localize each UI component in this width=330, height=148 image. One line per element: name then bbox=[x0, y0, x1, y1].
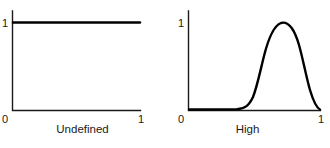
chart-caption-high: High bbox=[165, 122, 330, 136]
chart-caption-undefined: Undefined bbox=[0, 122, 165, 136]
membership-function-figure: 1 0 1 Undefined 1 0 1 High bbox=[0, 0, 330, 148]
axis-lines bbox=[13, 11, 141, 111]
y-tick-label-1: 1 bbox=[2, 17, 8, 29]
chart-panel-high: 1 0 1 High bbox=[165, 0, 330, 148]
y-tick-label-1: 1 bbox=[178, 17, 184, 29]
data-curve bbox=[189, 23, 320, 110]
chart-panel-undefined: 1 0 1 Undefined bbox=[0, 0, 165, 148]
